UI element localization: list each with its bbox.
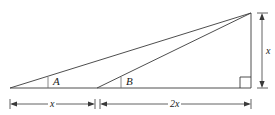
- dim-arrow-right-end: [244, 101, 251, 106]
- dim-arrow-right-start: [100, 101, 107, 106]
- dim-arrow-left-end: [88, 101, 95, 106]
- base-right-dimension-label: 2x: [168, 99, 181, 109]
- angle-b-label: B: [126, 76, 133, 87]
- height-dimension-label: x: [264, 46, 272, 56]
- figure-canvas: [0, 0, 275, 115]
- geometry-figure: A B x 2x x: [0, 0, 275, 115]
- dim-arrow-left-start: [10, 101, 17, 106]
- dim-arrow-height-bottom: [259, 81, 264, 88]
- right-angle-marker: [240, 77, 251, 88]
- base-left-dimension-label: x: [48, 99, 56, 109]
- dim-arrow-height-top: [259, 13, 264, 20]
- hypotenuse-from-mid-vertex: [97, 13, 251, 88]
- angle-a-label: A: [53, 76, 60, 87]
